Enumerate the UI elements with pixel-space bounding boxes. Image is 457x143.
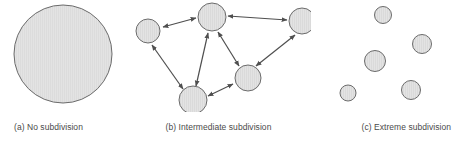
arrow-topcenter-to-right <box>228 16 287 20</box>
panel-c-diagram <box>311 0 457 112</box>
fragment-bottom-left <box>340 85 356 101</box>
subdivision-figure: (a) No subdivision <box>0 0 457 143</box>
panel-extreme-subdivision: (c) Extreme subdivision <box>311 0 457 143</box>
fragment-bottom-right <box>402 81 421 100</box>
region-whole <box>14 5 112 103</box>
node-left <box>136 19 160 43</box>
arrow-midright-to-right <box>256 35 295 66</box>
panel-b-caption: (b) Intermediate subdivision <box>126 122 311 132</box>
panel-a-diagram <box>0 0 126 112</box>
arrow-left-to-topcenter <box>163 18 196 27</box>
node-bottom <box>179 86 207 112</box>
panel-a-caption: (a) No subdivision <box>0 122 83 132</box>
arrow-left-to-bottom <box>152 45 183 89</box>
arrow-midright-to-topcenter <box>218 32 239 66</box>
node-right <box>289 8 311 34</box>
panel-no-subdivision: (a) No subdivision <box>0 0 126 143</box>
fragment-top <box>375 7 392 24</box>
node-top-center <box>198 3 226 31</box>
panel-c-caption: (c) Extreme subdivision <box>362 122 457 132</box>
fragment-center <box>365 51 386 72</box>
arrow-bottom-to-topcenter <box>196 33 208 86</box>
node-mid-right <box>235 65 261 91</box>
panel-b-arrows <box>152 16 295 96</box>
fragment-right-upper <box>413 35 432 54</box>
arrow-bottom-to-midright <box>208 84 233 96</box>
panel-b-diagram <box>126 0 311 112</box>
panel-intermediate-subdivision: (b) Intermediate subdivision <box>126 0 311 143</box>
